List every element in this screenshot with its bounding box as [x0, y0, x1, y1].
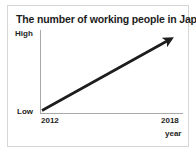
chart-screenshot: The number of working people in Japan Hi… — [0, 0, 196, 154]
x-axis-end-label: 2018 — [161, 116, 179, 125]
x-axis-start-label: 2012 — [41, 116, 59, 125]
plot-area: High Low 2012 2018 year — [0, 0, 196, 154]
y-axis-low-label: Low — [17, 107, 33, 116]
x-axis-unit-label: year — [165, 129, 181, 138]
y-axis-line — [40, 30, 41, 114]
y-axis-high-label: High — [15, 29, 33, 38]
x-axis-line — [40, 113, 183, 114]
